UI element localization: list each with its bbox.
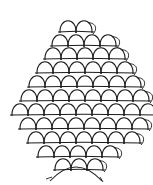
row-baseline xyxy=(26,142,142,143)
arch-row xyxy=(35,62,137,75)
arch-row xyxy=(10,104,153,117)
arch-row xyxy=(50,35,120,48)
arch-loop xyxy=(21,90,37,102)
row-baseline xyxy=(27,86,143,87)
row-baseline xyxy=(10,114,153,115)
arch-row xyxy=(19,90,153,103)
arch-loop xyxy=(140,104,153,116)
arch-row xyxy=(53,159,107,172)
row-baseline xyxy=(43,58,127,59)
row-baseline xyxy=(53,169,105,170)
arch-row xyxy=(27,76,145,89)
arch-loop xyxy=(20,118,36,130)
arch-row xyxy=(58,21,96,34)
arch-row xyxy=(43,48,129,61)
row-baseline xyxy=(36,156,120,157)
scallop-diamond-diagram xyxy=(0,0,153,185)
arch-row xyxy=(18,118,152,131)
arch-loop xyxy=(12,104,28,116)
arch-row xyxy=(26,132,144,145)
arch-row xyxy=(36,146,122,159)
bottom-tail-left xyxy=(46,177,52,179)
